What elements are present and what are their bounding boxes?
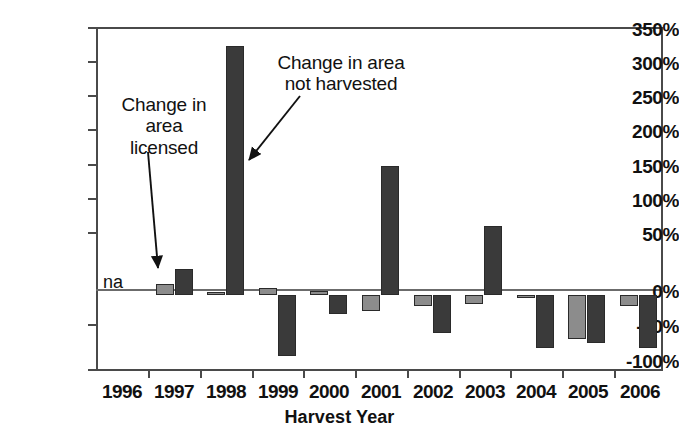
bar-2001-series1 <box>362 295 380 312</box>
x-tick-mark-4 <box>303 371 305 378</box>
x-tick-label-2001: 2001 <box>355 382 407 401</box>
y-tick-label-150: 150% <box>593 157 679 176</box>
y-tick-label-50: 50% <box>593 225 679 244</box>
x-tick-label-1999: 1999 <box>252 382 304 401</box>
x-axis-title: Harvest Year <box>0 407 679 428</box>
x-tick-label-2000: 2000 <box>303 382 355 401</box>
y-tick-label-350: 350% <box>593 20 679 39</box>
y-tick-label-300: 300% <box>593 54 679 73</box>
bar-2005-series1 <box>568 295 586 339</box>
bar-1999-series1 <box>259 288 277 294</box>
y-tick-mark-150 <box>88 164 96 166</box>
annotation-licensed: Change in area licensed <box>100 94 228 158</box>
x-tick-label-1997: 1997 <box>148 382 200 401</box>
y-tick-label-neg100: -100% <box>593 352 679 371</box>
x-tick-mark-5 <box>355 371 357 378</box>
y-tick-label-100: 100% <box>593 191 679 210</box>
annotation-licensed-line2: area <box>100 115 228 136</box>
y-tick-label-200: 200% <box>593 122 679 141</box>
bar-1997-series1 <box>156 284 174 295</box>
annotation-licensed-line3: licensed <box>100 137 228 158</box>
bar-2004-series2 <box>536 295 554 349</box>
y-tick-mark-300 <box>88 61 96 63</box>
x-tick-mark-3 <box>252 371 254 378</box>
bar-1998-series1 <box>207 292 225 294</box>
y-tick-mark-neg50 <box>88 324 96 326</box>
x-tick-label-1996: 1996 <box>96 382 148 401</box>
bar-2002-series2 <box>433 295 451 333</box>
y-tick-mark-350 <box>88 27 96 29</box>
y-tick-mark-250 <box>88 95 96 97</box>
bar-2004-series1 <box>517 295 535 298</box>
x-tick-mark-2 <box>200 371 202 378</box>
na-label: na <box>103 272 123 293</box>
bar-2003-series1 <box>465 295 483 304</box>
x-tick-label-2003: 2003 <box>459 382 511 401</box>
y-tick-label-neg50: -50% <box>593 317 679 336</box>
bar-2003-series2 <box>484 226 502 295</box>
x-tick-label-2006: 2006 <box>614 382 666 401</box>
x-tick-label-2005: 2005 <box>562 382 614 401</box>
x-tick-mark-6 <box>407 371 409 378</box>
y-tick-mark-neg100 <box>88 369 96 371</box>
annotation-not-harvested-line2: not harvested <box>246 73 436 94</box>
x-tick-mark-10 <box>614 371 616 378</box>
y-tick-mark-100 <box>88 198 96 200</box>
y-tick-mark-200 <box>88 129 96 131</box>
annotation-licensed-line1: Change in <box>100 94 228 115</box>
bar-2005-series2 <box>587 295 605 343</box>
bar-2006-series1 <box>620 295 638 306</box>
bar-1998-series2 <box>226 46 244 294</box>
bar-2000-series1 <box>310 291 328 295</box>
bar-1999-series2 <box>278 295 296 356</box>
x-tick-mark-8 <box>510 371 512 378</box>
bar-2001-series2 <box>381 166 399 294</box>
bar-2000-series2 <box>329 295 347 314</box>
x-tick-label-1998: 1998 <box>200 382 252 401</box>
y-tick-mark-50 <box>88 232 96 234</box>
y-tick-label-250: 250% <box>593 88 679 107</box>
x-tick-label-2002: 2002 <box>407 382 459 401</box>
x-tick-mark-9 <box>562 371 564 378</box>
x-tick-mark-1 <box>148 371 150 378</box>
annotation-not-harvested: Change in area not harvested <box>246 52 436 95</box>
bar-2006-series2 <box>639 295 657 349</box>
x-tick-mark-7 <box>459 371 461 378</box>
annotation-not-harvested-line1: Change in area <box>246 52 436 73</box>
bar-chart: 350% 300% 250% 200% 150% 100% 50% 0% -50… <box>0 0 679 435</box>
bar-2002-series1 <box>414 295 432 306</box>
x-tick-label-2004: 2004 <box>510 382 562 401</box>
bar-1997-series2 <box>175 269 193 295</box>
